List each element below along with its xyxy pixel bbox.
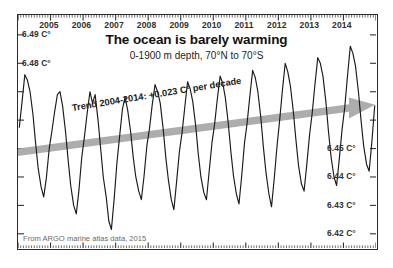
temperature-series-line (19, 46, 374, 229)
x-tick-label-2006: 2006 (72, 20, 92, 30)
y-tick-label-right-6.45: 6.45 C° (327, 143, 356, 153)
x-tick-label-2009: 2009 (169, 20, 189, 30)
chart-subtitle: 0-1900 m depth, 70°N to 70°S (0, 50, 393, 61)
source-credit: From ARGO marine atlas data, 2015 (23, 234, 146, 243)
y-tick-label-right-6.43: 6.43 C° (327, 200, 356, 210)
y-tick-label-right-6.42: 6.42 C° (327, 228, 356, 238)
bottom-axis-ticks (18, 243, 376, 249)
x-tick-label-2012: 2012 (267, 20, 287, 30)
x-tick-label-2010: 2010 (202, 20, 222, 30)
page-title: The ocean is barely warming (0, 32, 393, 47)
y-tick-label-left-6.48: 6.48 C° (22, 58, 51, 68)
x-tick-label-2008: 2008 (137, 20, 157, 30)
y-tick-label-left-6.49: 6.49 C° (22, 29, 51, 39)
x-tick-label-2013: 2013 (300, 20, 320, 30)
x-tick-label-2007: 2007 (104, 20, 124, 30)
chart-canvas: The ocean is barely warming 0-1900 m dep… (0, 0, 393, 268)
x-tick-label-2011: 2011 (234, 20, 253, 30)
y-tick-label-right-6.44: 6.44 C° (327, 171, 356, 181)
x-tick-label-2014: 2014 (332, 20, 352, 30)
